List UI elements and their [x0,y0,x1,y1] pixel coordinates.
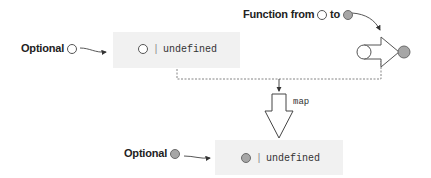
pointer-arrow-source [80,48,106,52]
undefined-text: undefined [163,44,217,55]
map-label: map [293,96,309,108]
empty-circle-icon [317,10,327,20]
result-optional-text: Optional [124,147,167,159]
union-separator: | [256,153,262,164]
function-label-prefix: Function from [243,8,314,20]
filled-circle-icon [170,149,180,159]
pointer-arrow-function [352,13,380,30]
result-type-box: |undefined [215,140,343,175]
result-type-expression: |undefined [241,153,320,165]
result-optional-label: Optional [124,147,180,160]
pointer-arrow-result [184,156,210,158]
source-optional-label: Optional [21,42,77,55]
empty-circle-icon [67,44,77,54]
map-arrow-icon [265,94,293,138]
function-label-middle: to [330,8,340,20]
empty-circle-icon [138,44,148,54]
filled-circle-icon [241,153,251,163]
function-arrow-icon [357,37,410,67]
undefined-text: undefined [266,153,320,164]
filled-circle-icon [343,10,353,20]
union-separator: | [153,44,159,55]
source-optional-text: Optional [21,42,64,54]
source-type-expression: |undefined [138,44,217,56]
source-type-box: |undefined [113,32,240,68]
function-label: Function from to [243,8,353,21]
